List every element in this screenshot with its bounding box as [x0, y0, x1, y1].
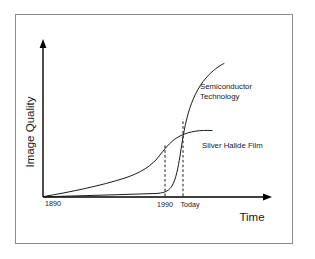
figure-canvas: Image Quality Time 1890 1990 Today Semic…: [0, 0, 315, 259]
arrow-right-icon: [263, 194, 272, 201]
curve-silver-halide-film: [44, 130, 212, 196]
axes-group: [40, 39, 272, 200]
curve-semiconductor-technology: [44, 64, 224, 197]
y-axis-label: Image Quality: [24, 96, 36, 167]
x-tick-label-today: Today: [180, 200, 200, 209]
x-tick-label-1990: 1990: [157, 200, 173, 209]
x-axis-label: Time: [239, 211, 264, 223]
annotation-silver-halide-film: Silver Halide Film: [202, 141, 263, 150]
arrow-up-icon: [40, 39, 47, 48]
annotation-semiconductor-line1: Semiconductor: [200, 82, 252, 91]
image-quality-vs-time-chart: Image Quality Time 1890 1990 Today Semic…: [0, 0, 315, 259]
annotation-semiconductor-line2: Technology: [200, 92, 240, 101]
figure-border: [16, 15, 293, 244]
x-tick-label-1890: 1890: [45, 199, 61, 208]
